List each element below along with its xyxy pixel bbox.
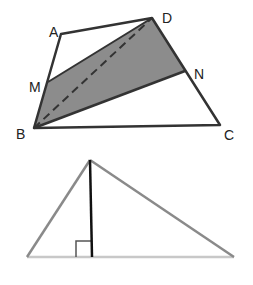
altitude [90, 160, 92, 257]
triangle-left-side [27, 160, 90, 257]
label-n: N [194, 66, 204, 82]
triangle-right-side [90, 160, 234, 257]
geometry-figures: A D M N B C [0, 0, 253, 285]
quadrilateral-figure: A D M N B C [16, 10, 234, 143]
triangle-figure [27, 160, 234, 257]
right-angle-marker [76, 241, 92, 257]
label-a: A [49, 24, 59, 40]
label-c: C [224, 127, 234, 143]
label-b: B [16, 126, 25, 142]
label-m: M [29, 79, 41, 95]
label-d: D [162, 10, 172, 26]
